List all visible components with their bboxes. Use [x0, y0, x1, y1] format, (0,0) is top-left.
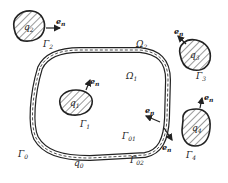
label-en-1: en — [90, 76, 99, 87]
outer-wall — [33, 50, 168, 158]
heat-domain-diagram: q2 Γ2 en Ω2 Ω1 en q3 Γ3 en q1 Γ1 en en Γ… — [0, 0, 228, 183]
label-en-outer: en — [162, 142, 171, 153]
normal-vectors — [46, 28, 202, 140]
label-gamma3: Γ3 — [195, 71, 206, 82]
label-en-3: en — [174, 26, 183, 37]
label-gamma2: Γ2 — [42, 39, 53, 50]
label-gamma4: Γ4 — [185, 150, 196, 161]
label-omega2: Ω2 — [135, 39, 147, 50]
label-gamma1: Γ1 — [79, 119, 90, 130]
label-gamma01: Γ01 — [121, 131, 136, 142]
label-en-2: en — [56, 16, 65, 27]
label-en-4: en — [204, 92, 213, 103]
label-gamma0: Γ0 — [17, 149, 28, 160]
label-en-inner: en — [145, 105, 154, 116]
label-omega1: Ω1 — [125, 71, 137, 82]
